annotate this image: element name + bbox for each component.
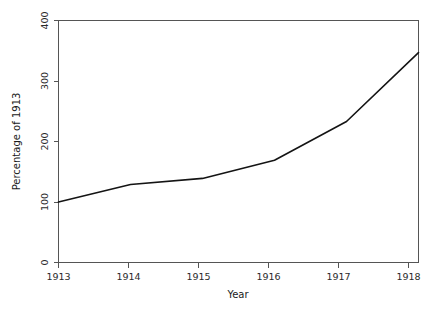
chart-canvas: 0 100 200 300 400 Percentage of 1913 191… — [0, 0, 438, 310]
y-tick-label: 0 — [39, 259, 50, 265]
y-axis-title: Percentage of 1913 — [11, 93, 22, 191]
x-axis-title: Year — [226, 289, 249, 300]
x-tick-label: 1917 — [326, 271, 350, 282]
x-tick-label: 1915 — [186, 271, 210, 282]
y-tick-label: 300 — [39, 72, 50, 90]
x-tick-label: 1916 — [256, 271, 280, 282]
y-tick-label: 400 — [39, 11, 50, 29]
y-tick-label: 200 — [39, 132, 50, 150]
chart-background — [0, 0, 438, 310]
x-tick-label: 1918 — [396, 271, 420, 282]
line-chart: 0 100 200 300 400 Percentage of 1913 191… — [0, 0, 438, 310]
y-tick-label: 100 — [39, 193, 50, 211]
x-tick-label: 1913 — [46, 271, 70, 282]
x-tick-label: 1914 — [116, 271, 140, 282]
